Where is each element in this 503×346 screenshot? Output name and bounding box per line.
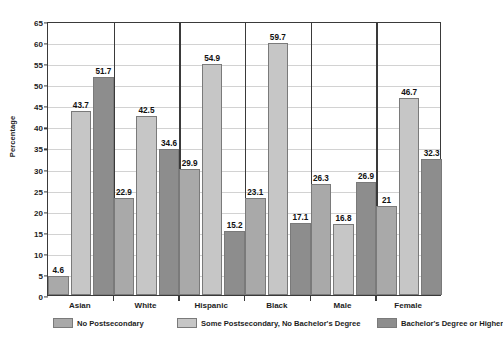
- bar-value-label: 26.9: [358, 172, 374, 181]
- bar: 16.8: [333, 224, 354, 295]
- bar: 26.9: [356, 182, 377, 295]
- legend-label: No Postsecondary: [77, 319, 144, 328]
- bar-value-label: 54.9: [204, 54, 220, 63]
- bar-group: 22.942.534.6: [114, 23, 180, 295]
- bar-group: 2146.732.3: [376, 23, 442, 295]
- bar: 46.7: [399, 98, 420, 295]
- legend-item: Some Postsecondary, No Bachelor's Degree: [177, 318, 361, 328]
- chart-legend: No PostsecondarySome Postsecondary, No B…: [47, 314, 441, 332]
- bar-value-label: 32.3: [424, 149, 440, 158]
- x-axis-tick-mark: [375, 296, 376, 301]
- bar: 42.5: [136, 116, 157, 295]
- bar-group: 29.954.915.2: [179, 23, 245, 295]
- bar-group: 4.643.751.7: [48, 23, 114, 295]
- x-axis-tick-mark: [113, 296, 114, 301]
- bar: 59.7: [268, 43, 289, 295]
- bar: 29.9: [179, 169, 200, 295]
- x-axis-category-label: Hispanic: [178, 301, 244, 310]
- legend-swatch: [377, 318, 397, 328]
- x-axis-category-label: Male: [310, 301, 376, 310]
- legend-swatch: [53, 318, 73, 328]
- bar: 32.3: [421, 159, 442, 295]
- bar-value-label: 51.7: [95, 67, 111, 76]
- legend-label: Some Postsecondary, No Bachelor's Degree: [201, 319, 361, 328]
- x-axis-tick-mark: [178, 296, 179, 301]
- bar: 54.9: [202, 64, 223, 295]
- x-axis-tick-mark: [244, 296, 245, 301]
- bar-value-label: 34.6: [161, 139, 177, 148]
- y-axis-label: Percentage: [8, 97, 17, 177]
- bar: 15.2: [224, 231, 245, 295]
- x-axis-category-label: Black: [244, 301, 310, 310]
- bar: 17.1: [290, 223, 311, 295]
- x-axis-category-label: Asian: [47, 301, 113, 310]
- plot-area: 051015202530354045505560654.643.751.722.…: [47, 22, 441, 296]
- x-axis-category-label: Female: [375, 301, 441, 310]
- bar: 26.3: [311, 184, 332, 295]
- bar: 51.7: [93, 77, 114, 295]
- bar: 23.1: [245, 198, 266, 295]
- y-axis-tick-mark: [44, 296, 48, 297]
- legend-label: Bachelor's Degree or Higher: [401, 319, 503, 328]
- legend-item: Bachelor's Degree or Higher: [377, 318, 503, 328]
- bar-value-label: 16.8: [336, 214, 352, 223]
- bar-value-label: 15.2: [227, 221, 243, 230]
- x-axis-category-label: White: [113, 301, 179, 310]
- bar-value-label: 23.1: [247, 188, 263, 197]
- bar-value-label: 59.7: [270, 33, 286, 42]
- bar-value-label: 29.9: [182, 159, 198, 168]
- bar: 43.7: [71, 111, 92, 295]
- bar: 22.9: [114, 198, 135, 295]
- bar-group: 26.316.826.9: [311, 23, 377, 295]
- bar-value-label: 17.1: [292, 213, 308, 222]
- bar-value-label: 26.3: [313, 174, 329, 183]
- legend-item: No Postsecondary: [53, 318, 144, 328]
- bar-group: 23.159.717.1: [245, 23, 311, 295]
- x-axis-tick-mark: [310, 296, 311, 301]
- bar-value-label: 43.7: [73, 101, 89, 110]
- bar-value-label: 42.5: [139, 106, 155, 115]
- bar-value-label: 46.7: [401, 88, 417, 97]
- bar: 34.6: [159, 149, 180, 295]
- legend-swatch: [177, 318, 197, 328]
- bar: 4.6: [48, 276, 69, 295]
- bar-value-label: 4.6: [53, 266, 64, 275]
- bar: 21: [376, 206, 397, 295]
- bar-value-label: 21: [382, 196, 391, 205]
- bar-value-label: 22.9: [116, 188, 132, 197]
